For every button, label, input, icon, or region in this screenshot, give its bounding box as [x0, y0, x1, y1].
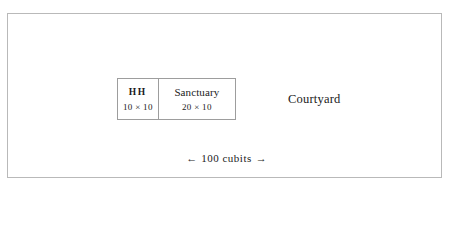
scale-caption: ←100 cubits→ [0, 151, 453, 165]
room-holy-of-holies: HH 10 × 10 [118, 79, 159, 119]
arrow-left-icon: ← [186, 152, 197, 164]
room-sanctuary-dimensions: 20 × 10 [182, 101, 212, 113]
courtyard-label: Courtyard [288, 92, 340, 107]
scale-value: 100 cubits [201, 152, 252, 164]
temple-building: HH 10 × 10 Sanctuary 20 × 10 [117, 78, 236, 120]
room-sanctuary-label: Sanctuary [174, 86, 219, 99]
arrow-right-icon: → [256, 152, 267, 164]
room-holy-of-holies-dimensions: 10 × 10 [123, 101, 153, 113]
room-holy-of-holies-label: HH [129, 86, 147, 99]
room-sanctuary: Sanctuary 20 × 10 [159, 79, 235, 119]
